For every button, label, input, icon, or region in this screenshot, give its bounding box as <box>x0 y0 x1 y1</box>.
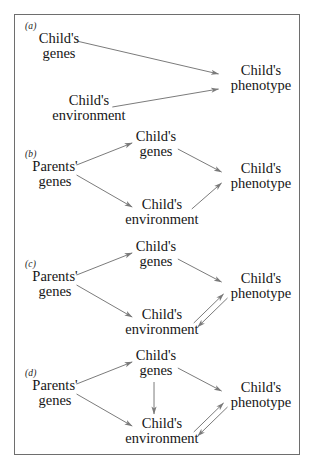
panel-a: (a) Child's genes Child's environment Ch… <box>15 17 299 127</box>
panel-c: (c) Parents' genes Child's genes Child's… <box>15 237 299 347</box>
node-line-1: Child's <box>123 239 189 254</box>
node-line-1: Parents' <box>19 159 91 174</box>
edge-genes-to-phenotype <box>77 41 219 74</box>
node-line-1: Child's <box>109 416 215 431</box>
node-line-1: Parents' <box>19 378 91 393</box>
node-childs-phenotype: Child's phenotype <box>219 161 303 191</box>
node-line-2: phenotype <box>219 78 303 93</box>
node-childs-environment: Child's environment <box>109 307 215 337</box>
node-line-2: genes <box>123 254 189 269</box>
node-childs-environment: Child's environment <box>109 197 215 227</box>
node-line-2: genes <box>19 174 91 189</box>
node-line-1: Parents' <box>19 269 91 284</box>
node-line-2: environment <box>35 108 143 123</box>
node-childs-phenotype: Child's phenotype <box>219 271 303 301</box>
panel-b: (b) Parents' genes Child's genes Child's… <box>15 127 299 237</box>
node-childs-environment: Child's environment <box>35 93 143 123</box>
node-childs-environment: Child's environment <box>109 416 215 446</box>
node-line-2: genes <box>123 363 189 378</box>
panel-d: (d) Parents' genes Child's genes Child's… <box>15 346 299 456</box>
node-childs-phenotype: Child's phenotype <box>219 380 303 410</box>
node-parents-genes: Parents' genes <box>19 378 91 408</box>
node-line-1: Child's <box>219 161 303 176</box>
node-line-1: Child's <box>109 307 215 322</box>
node-childs-genes: Child's genes <box>123 239 189 269</box>
node-childs-genes: Child's genes <box>123 348 189 378</box>
node-line-1: Child's <box>123 129 189 144</box>
node-line-1: Child's <box>35 93 143 108</box>
node-line-2: genes <box>23 46 95 61</box>
node-line-2: environment <box>109 322 215 337</box>
figure-frame: (a) Child's genes Child's environment Ch… <box>14 14 300 455</box>
node-parents-genes: Parents' genes <box>19 159 91 189</box>
node-childs-phenotype: Child's phenotype <box>219 63 303 93</box>
node-line-1: Child's <box>109 197 215 212</box>
node-line-2: phenotype <box>219 176 303 191</box>
node-line-1: Child's <box>219 63 303 78</box>
node-line-2: environment <box>109 431 215 446</box>
node-line-1: Child's <box>123 348 189 363</box>
node-childs-genes: Child's genes <box>23 31 95 61</box>
node-line-1: Child's <box>219 380 303 395</box>
node-line-2: environment <box>109 212 215 227</box>
node-childs-genes: Child's genes <box>123 129 189 159</box>
node-line-2: phenotype <box>219 286 303 301</box>
node-line-2: phenotype <box>219 395 303 410</box>
node-line-2: genes <box>19 284 91 299</box>
node-line-1: Child's <box>219 271 303 286</box>
node-line-2: genes <box>19 393 91 408</box>
node-line-2: genes <box>123 144 189 159</box>
panel-label-a: (a) <box>25 21 37 31</box>
node-line-1: Child's <box>23 31 95 46</box>
node-parents-genes: Parents' genes <box>19 269 91 299</box>
